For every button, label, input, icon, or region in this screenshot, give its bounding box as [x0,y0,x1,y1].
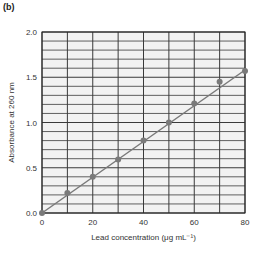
x-tick-label: 80 [241,218,250,227]
calibration-chart: 0204060800.00.51.01.52.0Lead concentrati… [0,0,258,253]
y-tick-label: 1.5 [26,73,38,82]
x-tick-label: 20 [88,218,97,227]
y-tick-label: 0.0 [26,209,38,218]
y-tick-label: 2.0 [26,28,38,37]
y-tick-label: 0.5 [26,164,38,173]
data-point [242,68,248,74]
data-point [191,100,197,106]
x-tick-label: 0 [40,218,45,227]
y-axis-label: Absorbance at 260 nm [7,82,16,163]
data-point [217,79,223,85]
y-tick-label: 1.0 [26,119,38,128]
x-tick-label: 40 [139,218,148,227]
data-point [39,210,45,216]
data-point [166,120,172,126]
data-point [90,174,96,180]
data-point [64,190,70,196]
x-tick-label: 60 [190,218,199,227]
data-point [141,138,147,144]
data-point [115,157,121,163]
x-axis-label: Lead concentration (μg mL⁻¹) [91,233,196,242]
